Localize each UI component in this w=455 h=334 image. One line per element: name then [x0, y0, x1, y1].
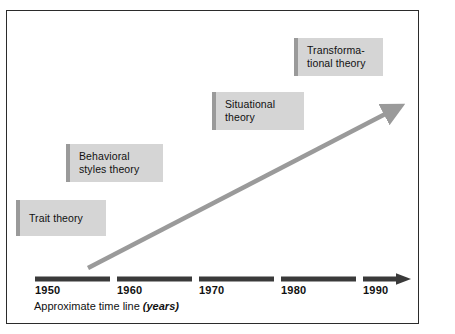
theory-label: Situational theory — [212, 98, 283, 124]
axis-caption-units: (years) — [143, 300, 179, 312]
tick-label-1970: 1970 — [199, 284, 224, 296]
theory-box-situational[interactable]: Situational theory — [212, 92, 304, 130]
theory-box-behavioral-styles[interactable]: Behavioral styles theory — [66, 144, 163, 182]
theory-box-transformational[interactable]: Transforma- tional theory — [294, 38, 383, 76]
theory-label: Behavioral styles theory — [66, 150, 147, 176]
axis-caption: Approximate time line (years) — [34, 300, 179, 312]
theory-label: Transforma- tional theory — [294, 44, 374, 70]
theory-box-trait[interactable]: Trait theory — [16, 200, 106, 236]
tick-label-1980: 1980 — [281, 284, 306, 296]
axis-caption-text: Approximate time line — [34, 300, 143, 312]
figure-canvas: Trait theory Behavioral styles theory Si… — [0, 0, 455, 334]
theory-label: Trait theory — [16, 212, 91, 225]
tick-label-1950: 1950 — [35, 284, 60, 296]
tick-label-1990: 1990 — [363, 284, 388, 296]
tick-label-1960: 1960 — [117, 284, 142, 296]
